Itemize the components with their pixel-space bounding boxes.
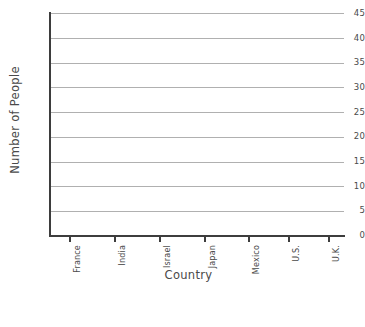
x-axis-line <box>49 235 345 237</box>
x-tick-label-us: U.S. <box>292 245 301 262</box>
x-tick-label-india: India <box>118 245 127 266</box>
x-axis-title: Country <box>0 268 365 282</box>
x-tick-label-israel: Israel <box>163 245 172 268</box>
x-tick-japan <box>204 237 206 242</box>
gridline-30 <box>50 87 344 88</box>
gridline-45 <box>50 13 344 14</box>
x-tick-mexico <box>248 237 250 242</box>
x-tick-uk <box>328 237 330 242</box>
y-axis-title-text: Number of People <box>8 66 22 174</box>
gridline-25 <box>50 112 344 113</box>
x-axis-title-text: Country <box>165 268 213 282</box>
plot-area <box>50 13 344 236</box>
y-axis-title: Number of People <box>6 0 24 240</box>
gridline-35 <box>50 63 344 64</box>
x-tick-india <box>114 237 116 242</box>
gridline-10 <box>50 186 344 187</box>
x-tick-france <box>69 237 71 242</box>
x-tick-israel <box>159 237 161 242</box>
x-tick-us <box>288 237 290 242</box>
gridline-40 <box>50 38 344 39</box>
gridline-15 <box>50 162 344 163</box>
gridline-20 <box>50 137 344 138</box>
y-axis-line <box>49 12 51 237</box>
bar-chart: Number of People 45 40 35 30 25 20 15 10… <box>0 0 365 327</box>
x-tick-label-japan: Japan <box>208 245 217 268</box>
x-tick-label-uk: U.K. <box>332 245 341 262</box>
gridline-5 <box>50 211 344 212</box>
